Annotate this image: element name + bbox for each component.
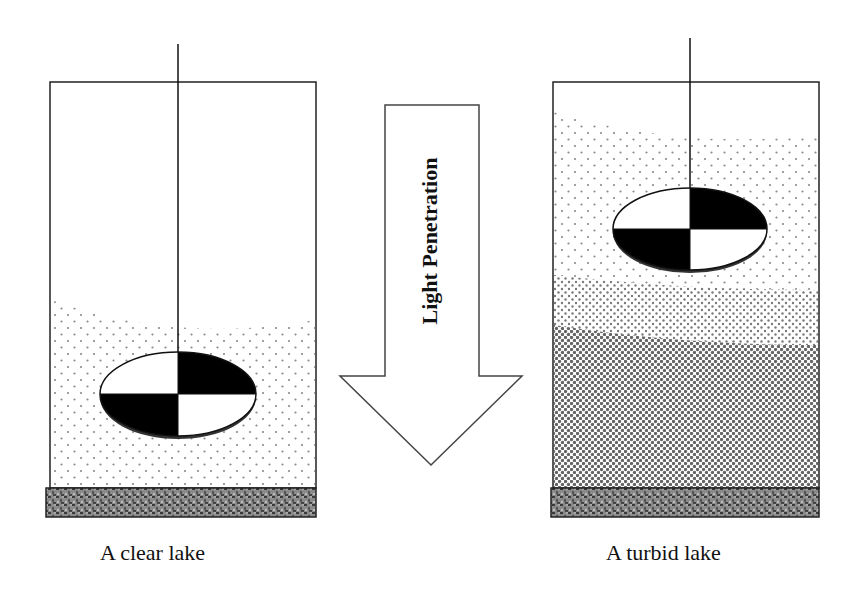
caption-turbid-lake: A turbid lake — [606, 540, 721, 566]
clear-lake-panel — [46, 44, 316, 517]
turbid-lake-panel — [551, 38, 819, 517]
turbid-lake-particles-dense — [554, 325, 818, 487]
turbid-lake-sediment — [551, 488, 819, 517]
clear-lake-sediment — [46, 488, 316, 517]
arrow-label: Light Penetration — [417, 151, 443, 331]
caption-clear-lake: A clear lake — [100, 540, 205, 566]
secchi-disk-clear — [100, 352, 256, 439]
secchi-disk-turbid — [613, 188, 767, 273]
